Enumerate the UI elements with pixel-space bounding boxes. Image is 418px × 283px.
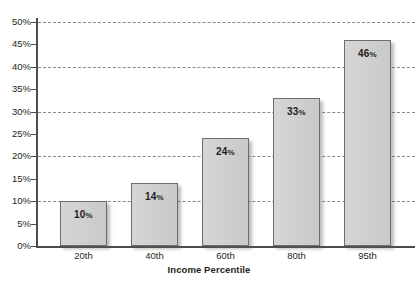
x-axis-title: Income Percentile [0, 264, 418, 275]
bar-value-number: 46 [358, 48, 370, 59]
y-axis-tick-label: 10% [3, 196, 31, 206]
bar-value-label: 10% [61, 209, 106, 220]
bar-chart: 0%5%10%15%20%25%30%35%40%45%50% 10%14%24… [0, 0, 418, 283]
bar: 24% [202, 138, 249, 246]
bar-group: 10%14%24%33%46% [38, 22, 415, 246]
bar-value-label: 24% [203, 146, 248, 157]
y-axis-tick-label: 0% [3, 241, 31, 251]
bar-value-percent-sign: % [370, 50, 377, 59]
bar-value-number: 10 [74, 209, 86, 220]
bar-value-percent-sign: % [228, 148, 235, 157]
x-axis-line [36, 246, 415, 248]
y-axis-tick-label: 30% [3, 107, 31, 117]
bar: 46% [344, 40, 391, 246]
y-axis-tick-label: 20% [3, 151, 31, 161]
bar: 14% [131, 183, 178, 246]
y-axis-tick-label: 40% [3, 62, 31, 72]
bar-value-number: 33 [287, 106, 299, 117]
y-axis-tick-label: 35% [3, 84, 31, 94]
bar-value-percent-sign: % [86, 211, 93, 220]
y-axis-tick-label: 25% [3, 129, 31, 139]
bar-value-percent-sign: % [157, 193, 164, 202]
bar-value-label: 14% [132, 191, 177, 202]
bar-value-label: 33% [274, 106, 319, 117]
bar-value-label: 46% [345, 48, 390, 59]
y-axis-tick-label: 50% [3, 17, 31, 27]
x-axis-tick-label: 40th [120, 250, 190, 261]
y-axis-tick-label: 15% [3, 174, 31, 184]
x-axis-tick-label: 20th [49, 250, 119, 261]
bar-value-number: 24 [216, 146, 228, 157]
y-axis-tick-label: 45% [3, 39, 31, 49]
x-axis-tick-label: 60th [191, 250, 261, 261]
x-axis-tick-label: 80th [262, 250, 332, 261]
y-axis-tick-label: 5% [3, 219, 31, 229]
bar: 33% [273, 98, 320, 246]
bar-value-number: 14 [145, 191, 157, 202]
bar: 10% [60, 201, 107, 246]
x-axis-tick-label: 95th [333, 250, 403, 261]
bar-value-percent-sign: % [299, 108, 306, 117]
